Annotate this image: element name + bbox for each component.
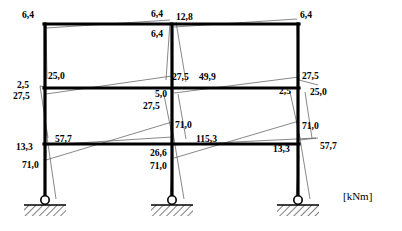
moment-label-top-mid-above-left: 6,4 [151,9,163,19]
moment-label-lvl3-mid-below-upper: 26,6 [150,148,167,158]
moment-label-lvl3-right-inner: 57,7 [320,141,337,151]
moment-label-lvl2-right-inner-left: 2,5 [279,86,291,96]
supports [24,196,319,216]
moment-label-lvl3-mid-col-upper: 71,0 [175,120,192,130]
moment-label-lvl2-left-outer-upper: 2,5 [17,80,29,90]
moment-label-lvl2-left-inner: 25,0 [48,71,65,81]
moment-label-lvl2-right-outer: 27,5 [302,71,319,81]
ground-hatch-right [277,205,319,216]
moment-label-lvl2-left-outer-lower: 27,5 [13,91,30,101]
moment-label-top-left-corner: 6,4 [22,10,34,20]
moment-diagram-lines [40,19,318,200]
moment-label-lvl2-mid-upper-right: 49,9 [199,72,216,82]
moment-label-lvl2-mid-below-upper: 5,0 [155,89,167,99]
moment-label-lvl3-left-below: 71,0 [22,160,39,170]
moment-line-right-col-mid-outer [305,92,312,138]
moment-line-mid-col-mid-right [178,94,186,139]
support-right [277,196,319,216]
moment-label-lvl3-left-outer: 13,3 [16,142,33,152]
moment-label-lvl2-mid-below-lower: 27,5 [143,101,160,111]
moment-label-top-mid-right: 12,8 [176,12,193,22]
moment-line-mid-col-top-left [166,22,170,80]
bending-moment-diagram: 6,46,412,86,46,42,527,525,027,549,95,027… [0,0,402,231]
moment-label-lvl3-left-inner: 57,7 [55,134,72,144]
moment-label-lvl3-right-outer: 13,3 [273,144,290,154]
pin-circle-left [41,196,49,204]
frame-drawing [0,0,402,231]
moment-label-lvl3-mid-beam-right: 115,3 [196,134,217,144]
moment-label-lvl3-right-col-upper: 71,0 [302,121,319,131]
moment-label-top-right-corner: 6,4 [300,10,312,20]
moment-label-lvl2-right-inner-right: 25,0 [310,87,327,97]
support-left [24,196,66,216]
support-middle [151,196,193,216]
ground-hatch-left [24,205,66,216]
unit-label: [kNm] [343,191,372,202]
moment-label-top-mid-below: 6,4 [151,29,163,39]
moment-label-lvl3-mid-below-lower: 71,0 [150,161,167,171]
frame-members [44,24,299,198]
ground-hatch-middle [151,205,193,216]
pin-circle-right [294,196,302,204]
moment-label-lvl2-mid-upper-left: 27,5 [172,72,189,82]
pin-circle-middle [168,196,176,204]
moment-line-right-col-base [299,133,310,199]
